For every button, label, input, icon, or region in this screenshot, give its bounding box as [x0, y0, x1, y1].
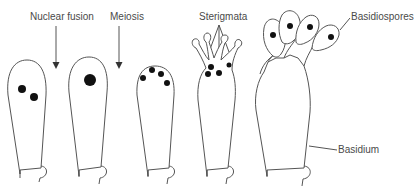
nucleus	[307, 24, 313, 30]
label-basidium: Basidium	[338, 144, 379, 155]
nucleus	[158, 71, 164, 77]
nucleus	[30, 93, 38, 101]
basidium-stage-2	[69, 57, 108, 184]
nucleus	[140, 75, 146, 81]
basidium-stage-4	[192, 33, 242, 184]
arrow-nuclear-fusion	[53, 26, 60, 69]
label-basidiospores: Basidiospores	[351, 11, 414, 22]
nucleus	[287, 23, 293, 29]
nucleus	[205, 71, 211, 77]
nucleus	[216, 70, 222, 76]
label-nuclear-fusion: Nuclear fusion	[30, 11, 94, 22]
nucleus	[208, 64, 214, 70]
basidium-stage-5	[255, 11, 339, 186]
nucleus	[328, 34, 334, 40]
arrow-meiosis	[116, 26, 123, 69]
nucleus	[149, 67, 155, 73]
label-meiosis: Meiosis	[110, 11, 144, 22]
basidiospores-pointer-line	[340, 18, 350, 30]
nucleus	[270, 32, 276, 38]
diploid-nucleus	[84, 74, 96, 86]
nucleus	[18, 85, 26, 93]
basidium-stage-3	[137, 66, 175, 184]
basidium-pointer-line	[309, 146, 337, 150]
basidium-stage-1	[8, 60, 47, 182]
label-sterigmata: Sterigmata	[199, 11, 248, 22]
nucleus	[227, 63, 232, 68]
nucleus	[164, 80, 170, 86]
basidium-diagram: Nuclear fusion Meiosis Sterigmata	[0, 0, 417, 196]
